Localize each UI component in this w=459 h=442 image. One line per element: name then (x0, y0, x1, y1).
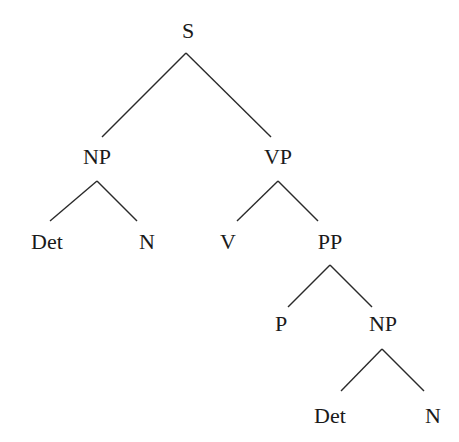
node-det2: Det (314, 405, 346, 427)
edge-pp-p (288, 265, 330, 307)
node-vp: VP (264, 146, 292, 168)
node-n1: N (139, 231, 155, 253)
syntax-tree-diagram: SNPVPDetNVPPPNPDetN (0, 0, 459, 442)
edge-pp-np2 (330, 265, 372, 307)
edge-s-np1 (102, 53, 186, 137)
tree-edges (0, 0, 459, 442)
node-pp: PP (318, 231, 342, 253)
node-s: S (182, 20, 194, 42)
edge-vp-pp (278, 181, 318, 221)
edge-np2-det2 (341, 349, 382, 391)
node-np2: NP (369, 313, 397, 335)
node-p: P (275, 313, 287, 335)
edge-np2-n2 (382, 349, 424, 391)
edge-vp-v (237, 181, 278, 221)
node-det1: Det (31, 231, 63, 253)
edge-np1-det1 (50, 181, 97, 221)
node-np1: NP (83, 146, 111, 168)
node-v: V (220, 231, 236, 253)
edge-s-vp (186, 53, 271, 137)
edge-np1-n1 (97, 181, 137, 221)
node-n2: N (425, 405, 441, 427)
